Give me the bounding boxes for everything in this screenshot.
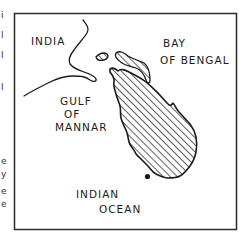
label-gulf-line2: OF xyxy=(64,108,80,120)
edge-fragment: e xyxy=(1,156,7,166)
sri-lanka-island xyxy=(110,68,197,178)
edge-fragment: y xyxy=(1,169,7,179)
india-coastline xyxy=(24,20,96,96)
edge-fragment: i xyxy=(1,10,4,20)
label-bay-line2: OF BENGAL xyxy=(160,54,230,66)
label-gulf-line1: GULF xyxy=(60,95,92,107)
label-ocean-line2: OCEAN xyxy=(99,203,141,215)
mannar-island xyxy=(96,53,108,60)
edge-fragment: l xyxy=(1,30,4,40)
city-dot-marker xyxy=(145,174,150,179)
label-india: INDIA xyxy=(31,35,65,47)
edge-fragment: l xyxy=(1,82,4,92)
edge-fragment: e xyxy=(1,199,7,209)
sri-lanka-map: i l l l e y e e INDIA BAY OF BENGAL GULF… xyxy=(0,0,247,242)
label-bay-line1: BAY xyxy=(163,37,186,49)
label-ocean-line1: INDIAN xyxy=(76,188,119,200)
left-edge-text-fragments: i l l l e y e e xyxy=(1,10,7,209)
edge-fragment: e xyxy=(1,186,7,196)
edge-fragment: l xyxy=(1,50,4,60)
label-gulf-line3: MANNAR xyxy=(55,121,107,133)
